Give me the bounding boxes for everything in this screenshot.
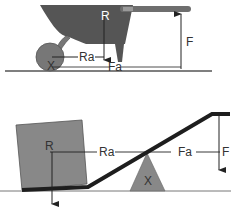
handle-grip — [123, 7, 133, 11]
label-resistance-arm-bottom: Ra — [98, 146, 115, 158]
diagram-svg — [0, 0, 234, 221]
label-resistance-top: R — [100, 10, 111, 22]
label-fulcrum-bottom: X — [143, 175, 153, 187]
label-resistance-bottom: R — [44, 140, 55, 152]
label-force-bottom: F — [221, 146, 230, 158]
lever-bar-diagram — [0, 114, 231, 204]
label-force-top: F — [185, 36, 194, 48]
label-resistance-arm-top: Ra — [78, 51, 95, 63]
label-fulcrum-top: X — [46, 60, 56, 72]
label-force-arm-top: Fa — [107, 61, 123, 73]
bucket-shape — [40, 5, 133, 44]
lever-diagrams: R Ra Fa F X R Ra Fa F X — [0, 0, 234, 221]
label-force-arm-bottom: Fa — [177, 146, 193, 158]
